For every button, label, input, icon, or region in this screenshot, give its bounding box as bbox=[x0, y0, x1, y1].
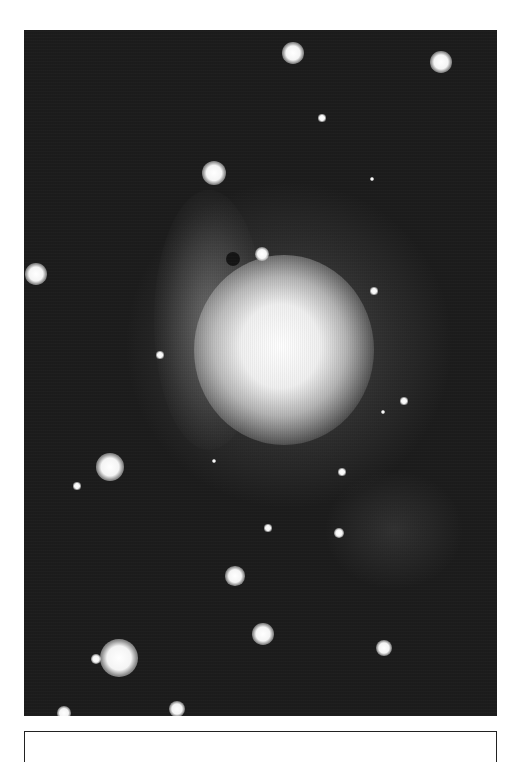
star bbox=[334, 528, 344, 538]
caption-box bbox=[24, 731, 497, 762]
star bbox=[282, 42, 304, 64]
star bbox=[430, 51, 452, 73]
star bbox=[202, 161, 226, 185]
star bbox=[169, 701, 186, 716]
star bbox=[264, 524, 271, 531]
star bbox=[25, 263, 47, 285]
star bbox=[100, 639, 138, 677]
galaxy-photo bbox=[24, 30, 497, 716]
star bbox=[400, 397, 407, 404]
star bbox=[252, 623, 274, 645]
film-grain bbox=[24, 30, 497, 716]
star bbox=[338, 468, 345, 475]
star bbox=[57, 706, 71, 716]
star bbox=[156, 351, 163, 358]
star bbox=[225, 566, 244, 585]
star bbox=[370, 287, 377, 294]
star bbox=[73, 482, 80, 489]
star bbox=[91, 654, 101, 664]
star bbox=[318, 114, 325, 121]
